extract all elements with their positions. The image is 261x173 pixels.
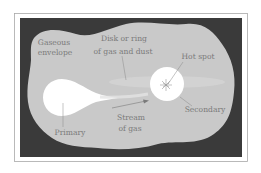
label-stream-line2: of gas — [118, 124, 141, 133]
label-stream-line1: Stream — [117, 113, 145, 122]
label-secondary: Secondary — [185, 105, 226, 114]
label-gaseous-envelope-line1: Gaseous — [38, 38, 70, 47]
label-disk-line2: of gas and dust — [94, 47, 153, 56]
label-primary: Primary — [55, 128, 87, 137]
label-gaseous-envelope-line2: envelope — [38, 48, 73, 57]
label-disk-line1: Disk or ring — [101, 34, 147, 43]
label-hot-spot: Hot spot — [181, 52, 214, 61]
binary-star-diagram: Gaseous envelope Disk or ring of gas and… — [0, 0, 261, 173]
